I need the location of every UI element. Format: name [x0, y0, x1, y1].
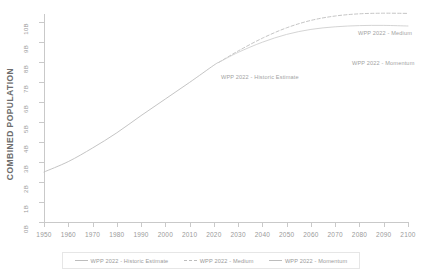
- legend-swatch-icon: [184, 260, 197, 261]
- legend-swatch-icon: [269, 260, 282, 261]
- x-axis-tick: [384, 222, 385, 227]
- x-axis-tick: [68, 222, 69, 227]
- y-axis-tick-label: 4B: [16, 137, 36, 147]
- y-axis-tick-label-text: 3B: [23, 165, 29, 173]
- x-axis-tick: [287, 222, 288, 227]
- x-axis-tick: [238, 222, 239, 227]
- y-axis-tick-label: 1B: [16, 197, 36, 207]
- x-axis-line: [44, 222, 409, 223]
- x-axis-tick: [408, 222, 409, 227]
- x-axis-tick: [141, 222, 142, 227]
- y-axis-tick-label: 9B: [16, 37, 36, 47]
- x-axis-tick: [190, 222, 191, 227]
- x-axis-tick: [359, 222, 360, 227]
- y-axis-tick-label-text: 5B: [23, 125, 29, 133]
- y-axis-title-label: COMBINED POPULATION: [5, 68, 15, 180]
- y-axis-tick-label-text: 9B: [23, 45, 29, 53]
- annotation-medium: WPP 2022 - Medium: [358, 30, 412, 36]
- y-axis-tick-label-text: 8B: [23, 65, 29, 73]
- x-axis-tick: [311, 222, 312, 227]
- y-axis-tick-label: 10B: [16, 17, 36, 27]
- legend-swatch-icon: [75, 260, 88, 261]
- series-line-wpp-2022-historic-estimate: [44, 62, 219, 172]
- y-axis-tick: [39, 22, 44, 23]
- annotation-historic-estimate: WPP 2022 - Historic Estimate: [221, 74, 299, 80]
- x-axis-tick: [117, 222, 118, 227]
- y-axis-tick-label: 7B: [16, 77, 36, 87]
- legend-label: WPP 2022 - Momentum: [285, 258, 347, 264]
- y-axis-tick-label: 3B: [16, 157, 36, 167]
- y-axis-tick-label: 2B: [16, 177, 36, 187]
- x-axis-tick-label: 2100: [388, 231, 422, 238]
- y-axis-tick: [39, 202, 44, 203]
- y-axis-tick: [39, 102, 44, 103]
- chart-legend: WPP 2022 - Historic Estimate WPP 2022 - …: [62, 252, 360, 269]
- y-axis-tick-label-text: 4B: [23, 145, 29, 153]
- legend-label: WPP 2022 - Historic Estimate: [91, 258, 169, 264]
- y-axis-tick-label-text: 10B: [23, 23, 29, 34]
- y-axis-line: [44, 14, 45, 222]
- y-axis-tick: [39, 42, 44, 43]
- y-axis-tick-label-text: 1B: [23, 205, 29, 213]
- x-axis-tick: [44, 222, 45, 227]
- y-axis-tick: [39, 182, 44, 183]
- y-axis-tick: [39, 142, 44, 143]
- y-axis-tick-label: 0B: [16, 217, 36, 227]
- y-axis-tick-label: 8B: [16, 57, 36, 67]
- y-axis-tick: [39, 122, 44, 123]
- x-axis-tick: [165, 222, 166, 227]
- x-axis-tick: [214, 222, 215, 227]
- y-axis-tick-label-text: 6B: [23, 105, 29, 113]
- annotation-momentum: WPP 2022 - Momentum: [352, 60, 414, 66]
- x-axis-tick: [93, 222, 94, 227]
- y-axis-tick-label-text: 2B: [23, 185, 29, 193]
- x-axis-tick: [335, 222, 336, 227]
- legend-item-historic-estimate[interactable]: WPP 2022 - Historic Estimate: [75, 258, 169, 264]
- y-axis-tick-label-text: 7B: [23, 85, 29, 93]
- series-line-wpp-2022-medium: [219, 13, 408, 62]
- legend-item-momentum[interactable]: WPP 2022 - Momentum: [269, 258, 347, 264]
- y-axis-tick: [39, 162, 44, 163]
- y-axis-tick: [39, 82, 44, 83]
- x-axis-tick: [262, 222, 263, 227]
- y-axis-tick: [39, 62, 44, 63]
- chart-canvas: COMBINED POPULATION 10B9B8B7B6B5B4B3B2B1…: [0, 0, 422, 276]
- legend-label: WPP 2022 - Medium: [200, 258, 254, 264]
- y-axis-tick-label: 6B: [16, 97, 36, 107]
- legend-item-medium[interactable]: WPP 2022 - Medium: [184, 258, 254, 264]
- y-axis-tick-label: 5B: [16, 117, 36, 127]
